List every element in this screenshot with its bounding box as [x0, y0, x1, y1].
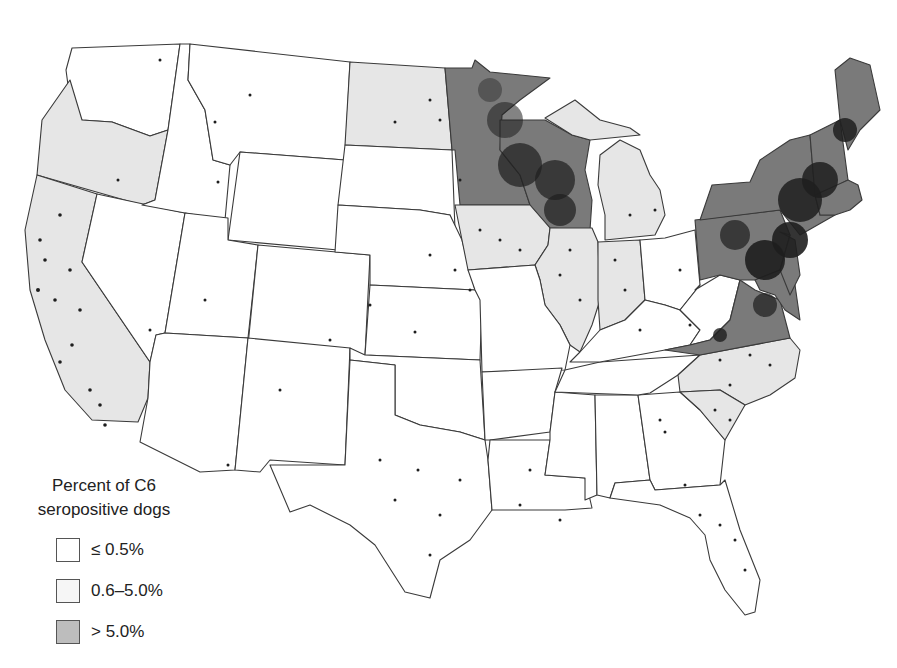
- legend-label-high: > 5.0%: [91, 622, 144, 642]
- state-florida: [610, 480, 760, 615]
- state-michigan-lower: [598, 140, 665, 240]
- legend-title-line1: Percent of C6: [18, 474, 190, 498]
- state-north-dakota: [345, 62, 452, 150]
- legend: Percent of C6 seropositive dogs ≤ 0.5% 0…: [18, 474, 228, 645]
- legend-swatch-high: [56, 620, 80, 644]
- state-montana: [188, 44, 350, 165]
- state-wyoming: [228, 152, 345, 250]
- legend-title: Percent of C6 seropositive dogs: [18, 474, 190, 522]
- legend-swatch-low: [56, 538, 80, 562]
- state-new-mexico: [235, 338, 350, 472]
- state-colorado: [248, 245, 370, 355]
- legend-label-mid: 0.6–5.0%: [91, 581, 163, 601]
- state-kansas: [365, 285, 482, 360]
- state-iowa: [455, 205, 550, 270]
- legend-item-low: ≤ 0.5%: [56, 537, 228, 563]
- state-arizona: [140, 333, 248, 472]
- legend-item-high: > 5.0%: [56, 619, 228, 645]
- legend-swatch-mid: [56, 579, 80, 603]
- legend-item-mid: 0.6–5.0%: [56, 578, 228, 604]
- legend-label-low: ≤ 0.5%: [91, 540, 144, 560]
- legend-title-line2: seropositive dogs: [18, 498, 190, 522]
